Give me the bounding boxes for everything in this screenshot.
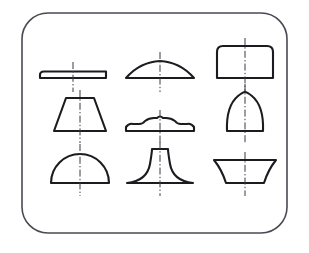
profiles-plate-canvas: [0, 0, 309, 253]
technical-drawing-figure: [0, 0, 309, 253]
